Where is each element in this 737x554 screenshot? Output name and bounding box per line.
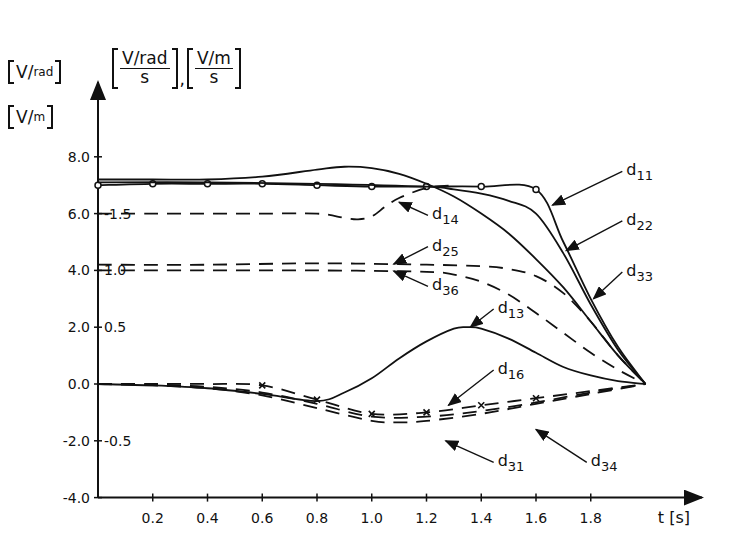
annotation-arrow [394,271,428,286]
circle-marker [478,184,484,190]
annotation-arrow [566,221,622,251]
curve-label-d33: d33 [626,261,653,284]
annotation-arrow [394,247,428,265]
curve-label-d34: d34 [591,451,618,474]
curve-label-d13: d13 [498,298,525,321]
y-tick-label: 8.0 [68,149,90,165]
curve-label-d16: d16 [498,359,525,382]
curve-label-d14: d14 [432,204,459,227]
x-tick-label: 0.2 [142,510,164,526]
annotation-arrow [593,272,622,299]
y2-tick-label: -0.5 [104,433,131,449]
y-tick-label: 2.0 [68,319,90,335]
annotation-arrow [470,309,493,327]
annotation-arrow [399,202,428,215]
y-tick-label: -2.0 [63,433,90,449]
x-axis-label: t [s] [658,508,690,527]
x-tick-label: 0.8 [306,510,328,526]
curve-label-d22: d22 [626,210,653,233]
annotation-arrow [448,370,493,405]
annotation-arrow [536,429,587,462]
curve-label-d11: d11 [626,160,653,183]
x-tick-label: 0.4 [196,510,218,526]
x-tick-label: 1.0 [361,510,383,526]
x-marker [478,402,484,408]
y-tick-label: 6.0 [68,206,90,222]
curve-label-d31: d31 [498,451,525,474]
series-group [95,167,646,423]
x-tick-label: 1.8 [580,510,602,526]
y2-tick-label: 0.5 [104,319,126,335]
x-tick-label: 1.2 [415,510,437,526]
x-tick-label: 0.6 [251,510,273,526]
annotation-arrow [446,441,494,463]
series-d25 [98,263,646,384]
curve-label-d25: d25 [432,236,459,259]
annotations: d11d22d33d14d25d36d13d16d31d34 [394,160,653,474]
y-tick-label: -4.0 [63,490,90,506]
series-d33 [98,182,646,384]
annotation-arrow [552,171,622,205]
y-tick-label: 0.0 [68,376,90,392]
y-tick-label: 4.0 [68,262,90,278]
x-tick-label: 1.6 [525,510,547,526]
line-chart: 8.06.04.02.00.0-2.0-4.0-1.51.00.5-0.50.2… [0,0,737,554]
circle-marker [533,186,539,192]
curve-label-d36: d36 [432,275,459,298]
x-tick-label: 1.4 [470,510,492,526]
series-d13 [98,327,646,401]
